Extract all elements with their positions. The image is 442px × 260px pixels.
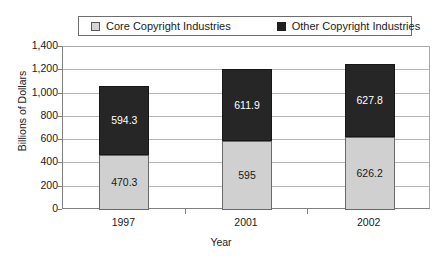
bar-value-label: 595 — [238, 170, 256, 181]
bar-value-label: 627.8 — [357, 95, 383, 106]
legend-item-other-copyright-industries: Other Copyright Industries — [277, 21, 420, 32]
plot-area: 470.3594.3595611.9626.2627.8 — [62, 46, 430, 209]
y-axis-tick-mark — [57, 209, 62, 210]
legend-item-core-copyright-industries: Core Copyright Industries — [91, 21, 231, 32]
x-axis-tick-label: 1997 — [93, 216, 153, 228]
bar-value-label: 470.3 — [111, 177, 137, 188]
chart-figure: Core Copyright Industries Other Copyrigh… — [0, 0, 442, 260]
bar-value-label: 594.3 — [111, 115, 137, 126]
legend-label-other: Other Copyright Industries — [292, 21, 420, 32]
bar-segment: 611.9 — [222, 69, 272, 140]
y-axis-tick-label: 200 — [14, 180, 58, 190]
bar-segment: 594.3 — [99, 86, 149, 155]
bar-segment: 595 — [222, 141, 272, 210]
legend-label-core: Core Copyright Industries — [106, 21, 231, 32]
bar-segment: 626.2 — [345, 137, 395, 210]
x-axis-tick-label: 2001 — [216, 216, 276, 228]
bar-value-label: 611.9 — [234, 100, 260, 111]
y-axis-tick-label: 0 — [14, 203, 58, 213]
chart-legend: Core Copyright Industries Other Copyrigh… — [78, 16, 412, 36]
gridline — [63, 46, 429, 47]
legend-swatch-other-icon — [277, 22, 286, 31]
bar-segment: 627.8 — [345, 64, 395, 137]
bar-segment: 470.3 — [99, 155, 149, 210]
legend-swatch-core-icon — [91, 22, 100, 31]
x-axis-title: Year — [0, 236, 442, 248]
x-axis-tick-mark — [307, 209, 308, 214]
y-axis-title: Billions of Dollars — [16, 51, 28, 171]
bar-value-label: 626.2 — [357, 168, 383, 179]
y-axis-tick-label: 1,400 — [14, 40, 58, 50]
x-axis-tick-mark — [185, 209, 186, 214]
x-axis-tick-label: 2002 — [339, 216, 399, 228]
